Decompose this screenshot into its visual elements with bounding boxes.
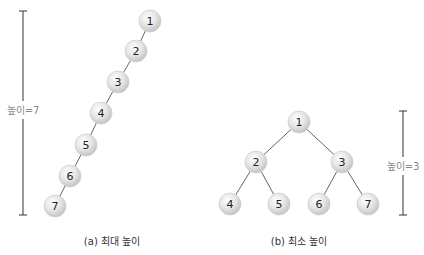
tree-node-2: 2 (245, 151, 267, 173)
max-height-tree: 1234567높이=7 (7, 10, 161, 217)
tree-node-5: 5 (75, 134, 97, 156)
tree-node-7: 7 (357, 193, 379, 215)
tree-node-3: 3 (107, 71, 129, 93)
height-label: 높이=3 (387, 161, 420, 172)
tree-node-1: 1 (139, 10, 161, 32)
node-label: 2 (133, 45, 140, 58)
binary-tree-height-diagram: 1234567높이=7 1234567높이=3 (0, 0, 424, 255)
tree-node-7: 7 (44, 195, 66, 217)
tree-node-2: 2 (125, 40, 147, 62)
node-label: 7 (52, 200, 59, 213)
node-label: 6 (316, 198, 323, 211)
node-label: 1 (147, 15, 154, 28)
caption-max-height: (a) 최대 높이 (84, 233, 140, 248)
caption-min-height: (b) 최소 높이 (271, 233, 328, 248)
node-label: 4 (98, 107, 105, 120)
tree-node-4: 4 (90, 102, 112, 124)
tree-node-1: 1 (288, 111, 310, 133)
node-label: 3 (339, 156, 346, 169)
tree-node-3: 3 (331, 151, 353, 173)
min-height-tree: 1234567높이=3 (219, 111, 419, 215)
node-label: 3 (115, 76, 122, 89)
tree-node-4: 4 (219, 193, 241, 215)
node-label: 2 (253, 156, 260, 169)
node-label: 1 (296, 116, 303, 129)
tree-node-6: 6 (59, 165, 81, 187)
node-label: 5 (276, 198, 283, 211)
height-indicator: 높이=3 (387, 111, 420, 215)
tree-node-6: 6 (308, 193, 330, 215)
node-label: 6 (67, 170, 74, 183)
node-label: 4 (227, 198, 234, 211)
node-label: 7 (365, 198, 372, 211)
height-label: 높이=7 (7, 105, 40, 116)
node-label: 5 (83, 139, 90, 152)
tree-node-5: 5 (268, 193, 290, 215)
height-indicator: 높이=7 (7, 11, 40, 215)
